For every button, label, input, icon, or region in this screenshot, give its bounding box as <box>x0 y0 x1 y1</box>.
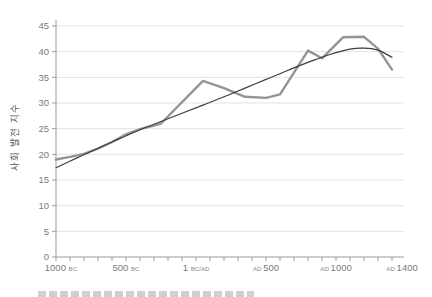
series-social-development-index <box>56 37 392 160</box>
y-tick-label-15: 15 <box>38 174 49 185</box>
caption-text-cropped <box>38 291 254 297</box>
x-axis-label-500: AD 500 <box>253 262 279 273</box>
y-tick-label-20: 20 <box>38 149 49 160</box>
y-tick-label-5: 5 <box>44 226 49 237</box>
y-tick-label-45: 45 <box>38 20 49 31</box>
series-smooth-trend <box>56 48 392 168</box>
x-axis-label-1400: AD 1400 <box>386 262 417 273</box>
chart-canvas: 0510152025303540451000 BC500 BC1 BC/ADAD… <box>0 0 432 297</box>
x-axis-label-1: 1 BC/AD <box>183 262 210 273</box>
y-tick-label-10: 10 <box>38 200 49 211</box>
y-tick-label-25: 25 <box>38 123 49 134</box>
y-tick-label-35: 35 <box>38 72 49 83</box>
x-axis-label-1000: AD 1000 <box>320 262 351 273</box>
social-development-line-chart: 0510152025303540451000 BC500 BC1 BC/ADAD… <box>0 0 432 297</box>
y-tick-label-40: 40 <box>38 46 49 57</box>
y-tick-label-0: 0 <box>44 251 49 262</box>
y-tick-label-30: 30 <box>38 97 49 108</box>
y-axis-title: 사회 발전 지수 <box>7 87 21 187</box>
x-axis-label--1000: 1000 BC <box>45 262 78 273</box>
x-axis-label--500: 500 BC <box>112 262 140 273</box>
